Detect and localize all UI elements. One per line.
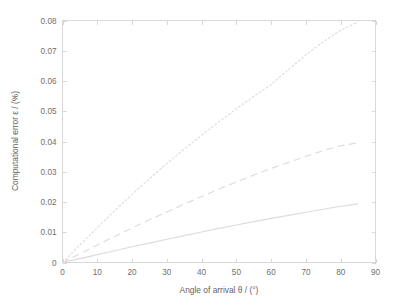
y-axis-tick-labels: 00.010.020.030.040.050.060.070.08 [41, 17, 57, 268]
y-tick-label: 0.03 [41, 168, 57, 177]
x-tick-label: 0 [60, 268, 65, 277]
y-tick-label: 0.06 [41, 77, 57, 86]
y-axis-ticks [63, 22, 67, 264]
plot-frame [63, 21, 376, 263]
x-tick-label: 20 [128, 268, 138, 277]
y-tick-label: 0.08 [41, 17, 57, 26]
x-axis-ticks-top [64, 21, 377, 25]
x-tick-label: 50 [232, 268, 242, 277]
x-tick-label: 80 [336, 268, 346, 277]
x-tick-label: 70 [301, 268, 311, 277]
y-tick-label: 0 [52, 259, 57, 268]
chart-page: 0102030405060708090 00.010.020.030.040.0… [0, 0, 394, 306]
x-axis-title: Angle of arrival θ / (°) [180, 285, 259, 295]
series-lower [63, 204, 359, 263]
y-tick-label: 0.05 [41, 107, 57, 116]
chart-canvas: 0102030405060708090 00.010.020.030.040.0… [0, 0, 394, 306]
y-axis-title: Computational error ε / (%) [10, 91, 20, 191]
x-tick-label: 40 [197, 268, 207, 277]
x-tick-label: 60 [267, 268, 277, 277]
series-upper [63, 22, 359, 262]
x-axis-tick-labels: 0102030405060708090 [60, 268, 380, 277]
y-tick-label: 0.02 [41, 198, 57, 207]
y-axis-ticks-right [372, 22, 376, 264]
y-tick-label: 0.01 [41, 228, 57, 237]
x-tick-label: 10 [93, 268, 103, 277]
series-middle [63, 143, 359, 263]
x-tick-label: 90 [371, 268, 381, 277]
x-axis-ticks [64, 259, 377, 263]
data-series-group [63, 22, 359, 262]
x-tick-label: 30 [162, 268, 172, 277]
y-tick-label: 0.04 [41, 138, 57, 147]
y-tick-label: 0.07 [41, 47, 57, 56]
